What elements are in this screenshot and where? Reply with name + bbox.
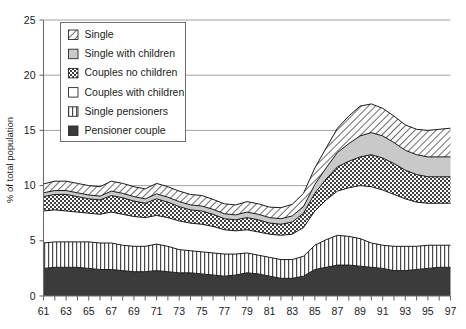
y-axis-ticks: 0510152025 xyxy=(24,14,44,302)
y-tick-label: 0 xyxy=(30,290,36,302)
x-tick-label: 73 xyxy=(173,305,185,317)
legend-label: Single with children xyxy=(85,47,176,59)
legend-item-single[interactable]: Single xyxy=(69,28,114,40)
x-tick-label: 97 xyxy=(445,305,457,317)
y-tick-label: 25 xyxy=(24,14,36,26)
x-tick-label: 67 xyxy=(105,305,117,317)
y-tick-label: 5 xyxy=(30,234,36,246)
legend-swatch-white-icon xyxy=(69,88,79,98)
legend-item-couples-no-children[interactable]: Couples no children xyxy=(69,66,178,78)
x-tick-label: 75 xyxy=(196,305,208,317)
x-tick-label: 71 xyxy=(151,305,163,317)
x-tick-label: 81 xyxy=(264,305,276,317)
x-tick-label: 91 xyxy=(377,305,389,317)
x-tick-label: 87 xyxy=(332,305,344,317)
legend-item-single-with-children[interactable]: Single with children xyxy=(69,47,176,59)
legend-swatch-checker-icon xyxy=(69,68,79,78)
legend-swatch-solid-dark-icon xyxy=(69,126,79,136)
legend-swatch-diagonal-hatch-icon xyxy=(69,30,79,40)
x-tick-label: 61 xyxy=(38,305,50,317)
legend-label: Pensioner couple xyxy=(85,124,166,136)
x-tick-label: 63 xyxy=(60,305,72,317)
x-tick-label: 79 xyxy=(241,305,253,317)
x-tick-label: 85 xyxy=(309,305,321,317)
legend-swatch-vertical-lines-icon xyxy=(69,107,79,117)
legend-swatch-solid-light-icon xyxy=(69,49,79,59)
y-axis-title: % of total population xyxy=(4,117,15,203)
legend-label: Couples with children xyxy=(85,86,185,98)
x-tick-label: 93 xyxy=(399,305,411,317)
x-tick-label: 95 xyxy=(422,305,434,317)
legend-label: Single pensioners xyxy=(85,105,168,117)
chart-canvas: 0510152025 61636567697173757779818385878… xyxy=(0,0,466,329)
x-tick-label: 65 xyxy=(83,305,95,317)
legend-item-couples-with-children[interactable]: Couples with children xyxy=(69,86,185,98)
x-tick-label: 69 xyxy=(128,305,140,317)
y-tick-label: 20 xyxy=(24,69,36,81)
legend-label: Couples no children xyxy=(85,66,178,78)
y-tick-label: 15 xyxy=(24,124,36,136)
legend-label: Single xyxy=(85,28,114,40)
x-axis-ticks: 61636567697173757779818385878991939597 xyxy=(38,296,457,317)
y-tick-label: 10 xyxy=(24,179,36,191)
x-tick-label: 89 xyxy=(354,305,366,317)
stacked-area-chart: 0510152025 61636567697173757779818385878… xyxy=(0,0,466,329)
x-tick-label: 77 xyxy=(219,305,231,317)
legend: SingleSingle with childrenCouples no chi… xyxy=(61,23,186,142)
x-tick-label: 83 xyxy=(286,305,298,317)
